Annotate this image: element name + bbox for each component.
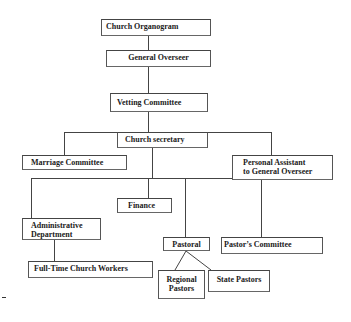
node-full-time-church-workers: Full-Time Church Workers [28, 261, 153, 278]
node-administrative-department: Administrative Department [22, 218, 101, 240]
node-personal-assistant: Personal Assistant to General Overseer [232, 155, 333, 180]
node-label: Pastor’s Committee [224, 240, 318, 249]
node-label-line1: Administrative [31, 221, 96, 230]
node-label: Pastoral [168, 240, 205, 249]
node-church-secretary: Church secretary [117, 132, 208, 148]
node-label: Full-Time Church Workers [34, 264, 148, 273]
stray-dash-mark [2, 297, 6, 298]
organogram-diagram: Church Organogram General Overseer Vetti… [0, 0, 351, 322]
node-marriage-committee: Marriage Committee [22, 155, 127, 170]
node-label: Finance [128, 201, 167, 210]
node-pastoral: Pastoral [163, 237, 210, 251]
node-label-line2: to General Overseer [243, 167, 328, 176]
node-general-overseer: General Overseer [106, 50, 211, 67]
node-label: Vetting Committee [117, 98, 203, 107]
node-label: General Overseer [111, 53, 206, 62]
node-label-line2: Department [31, 230, 96, 239]
node-pastors-committee: Pastor’s Committee [221, 237, 323, 254]
node-label: Marriage Committee [31, 158, 122, 167]
node-label: Church secretary [125, 135, 203, 144]
node-label-line2: Pastors [163, 284, 200, 293]
node-regional-pastors: Regional Pastors [158, 270, 205, 299]
node-church-organogram: Church Organogram [101, 19, 211, 36]
node-label: State Pastors [213, 275, 265, 284]
node-label: Church Organogram [106, 22, 206, 31]
node-state-pastors: State Pastors [208, 270, 270, 292]
node-label-line1: Personal Assistant [243, 158, 328, 167]
node-vetting-committee: Vetting Committee [110, 93, 208, 112]
node-label-line1: Regional [163, 275, 200, 284]
node-finance: Finance [117, 198, 172, 213]
